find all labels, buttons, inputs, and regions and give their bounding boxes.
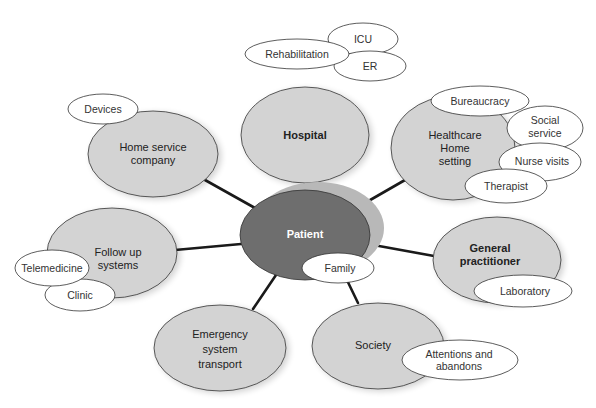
node-patient: Patient Family: [240, 182, 384, 283]
emergency-label-2: system: [203, 343, 238, 355]
rehabilitation-label: Rehabilitation: [265, 48, 329, 60]
healthcare-label-1: Healthcare: [428, 129, 481, 141]
social-label-1: Social: [531, 114, 560, 126]
clinic-label: Clinic: [67, 289, 93, 301]
patient-label: Patient: [287, 228, 324, 240]
followup-label-1: Follow up: [94, 246, 141, 258]
attentions-label-2: abandons: [436, 360, 482, 372]
therapist-label: Therapist: [484, 180, 528, 192]
attentions-label-1: Attentions and: [425, 348, 492, 360]
emergency-label-1: Emergency: [192, 328, 248, 340]
icu-label: ICU: [354, 33, 372, 45]
node-emergency: Emergency system transport: [154, 305, 286, 391]
patient-care-network-diagram: Hospital ICU ER Rehabilitation Home serv…: [0, 0, 596, 408]
home-service-label-2: company: [131, 154, 176, 166]
emergency-label-3: transport: [198, 358, 241, 370]
laboratory-label: Laboratory: [500, 285, 551, 297]
node-society: Society Attentions and abandons: [312, 303, 518, 389]
followup-label-2: systems: [98, 259, 139, 271]
nurse-visits-label: Nurse visits: [515, 155, 569, 167]
node-general-practitioner: General practitioner Laboratory: [433, 217, 572, 307]
gp-label-1: General: [470, 242, 511, 254]
connector-home-service: [205, 180, 255, 208]
node-hospital: Hospital ICU ER Rehabilitation: [241, 23, 406, 183]
bureaucracy-label: Bureaucracy: [451, 95, 511, 107]
node-follow-up: Follow up systems Clinic Telemedicine: [15, 208, 177, 311]
hospital-label: Hospital: [283, 129, 326, 141]
family-label: Family: [325, 262, 357, 274]
devices-label: Devices: [84, 103, 121, 115]
telemedicine-label: Telemedicine: [21, 262, 82, 274]
connector-follow-up: [175, 244, 241, 250]
home-service-label-1: Home service: [119, 141, 186, 153]
healthcare-label-2: Home: [440, 142, 469, 154]
healthcare-label-3: setting: [439, 155, 471, 167]
node-healthcare-home: Healthcare Home setting Bureaucracy Soci…: [391, 86, 583, 203]
er-label: ER: [363, 60, 378, 72]
gp-label-2: practitioner: [460, 255, 521, 267]
connector-emergency: [253, 275, 276, 309]
social-label-2: service: [528, 127, 561, 139]
node-home-service: Home service company Devices: [68, 94, 218, 197]
society-label: Society: [355, 339, 392, 351]
